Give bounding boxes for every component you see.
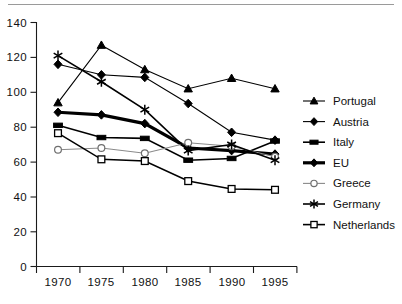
data-point-filled-diamond <box>97 111 105 120</box>
x-axis-tick-labels: 1970 1975 1980 1985 1990 1995 <box>44 276 288 288</box>
data-point-filled-diamond <box>184 99 192 108</box>
legend-item-portugal[interactable]: Portugal <box>303 95 376 107</box>
data-point-filled-diamond <box>54 60 62 69</box>
data-point-open-square <box>98 156 105 163</box>
series-layer <box>54 41 280 193</box>
x-tick-label: 1970 <box>44 276 71 288</box>
legend-item-greece[interactable]: Greece <box>303 177 371 189</box>
x-tick-label: 1980 <box>131 276 158 288</box>
y-axis-ticks <box>31 23 37 267</box>
y-tick-label: 60 <box>13 156 27 168</box>
line-chart: 140 120 100 80 60 40 20 0 1970 1975 1980… <box>0 0 402 304</box>
y-tick-label: 40 <box>13 191 27 203</box>
data-point-filled-diamond <box>141 73 149 82</box>
y-tick-label: 80 <box>13 121 27 133</box>
data-point-filled-diamond <box>54 108 62 117</box>
legend-label: Austria <box>333 116 369 128</box>
series-netherlands <box>55 130 279 193</box>
legend-marker-filled-diamond-icon <box>310 118 317 126</box>
chart-legend: PortugalAustriaItalyEUGreeceGermanyNethe… <box>303 95 395 231</box>
legend-label: Portugal <box>333 95 376 107</box>
legend-marker-filled-rect-icon <box>310 140 318 144</box>
legend-marker-filled-diamond-icon <box>310 159 317 167</box>
y-tick-label: 20 <box>13 226 27 238</box>
data-point-filled-diamond <box>228 128 236 137</box>
legend-item-italy[interactable]: Italy <box>303 136 354 148</box>
data-point-open-circle <box>55 146 62 153</box>
legend-label: Germany <box>333 198 381 210</box>
data-point-filled-rect <box>271 139 280 143</box>
data-point-filled-triangle <box>97 41 105 48</box>
x-axis-ticks <box>37 267 297 274</box>
data-point-open-circle <box>98 145 105 152</box>
legend-label: EU <box>333 157 349 169</box>
x-tick-label: 1975 <box>87 276 114 288</box>
data-point-filled-triangle <box>141 65 149 72</box>
data-point-open-square <box>228 186 235 193</box>
data-point-filled-rect <box>227 156 236 160</box>
legend-label: Greece <box>333 177 371 189</box>
data-point-star <box>97 77 106 87</box>
data-point-open-square <box>185 178 192 185</box>
data-point-open-square <box>272 186 279 193</box>
y-axis-tick-labels: 140 120 100 80 60 40 20 0 <box>7 17 27 273</box>
data-point-open-circle <box>141 150 148 157</box>
y-tick-label: 140 <box>7 17 27 29</box>
chart-svg: 140 120 100 80 60 40 20 0 1970 1975 1980… <box>0 0 402 304</box>
data-point-filled-rect <box>54 123 63 127</box>
x-tick-label: 1995 <box>261 276 288 288</box>
legend-item-germany[interactable]: Germany <box>303 198 381 210</box>
data-point-open-square <box>141 158 148 165</box>
legend-label: Netherlands <box>333 219 395 231</box>
data-point-filled-rect <box>140 136 149 140</box>
data-point-filled-rect <box>97 135 106 139</box>
legend-marker-open-square-icon <box>311 221 317 227</box>
legend-item-austria[interactable]: Austria <box>303 116 369 128</box>
legend-label: Italy <box>333 136 354 148</box>
x-tick-label: 1985 <box>174 276 201 288</box>
data-point-filled-rect <box>184 158 193 162</box>
x-tick-label: 1990 <box>218 276 245 288</box>
data-point-open-circle <box>185 139 192 146</box>
legend-marker-open-circle-icon <box>311 180 317 186</box>
y-tick-label: 100 <box>7 86 27 98</box>
y-tick-label: 120 <box>7 51 27 63</box>
data-point-star <box>54 51 63 61</box>
series-italy <box>54 123 280 162</box>
data-point-filled-triangle <box>227 74 235 81</box>
legend-item-eu[interactable]: EU <box>303 157 349 169</box>
y-tick-label: 0 <box>20 261 27 273</box>
data-point-open-square <box>55 130 62 137</box>
legend-item-netherlands[interactable]: Netherlands <box>303 219 395 231</box>
